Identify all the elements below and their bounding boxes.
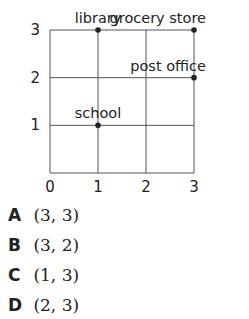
choice-a[interactable]: A (3, 3) — [8, 200, 79, 230]
choice-letter: D — [8, 290, 28, 319]
data-label: school — [75, 105, 122, 121]
choice-b[interactable]: B (3, 2) — [8, 230, 79, 260]
data-point — [95, 27, 101, 33]
y-tick-label: 2 — [30, 69, 40, 87]
answer-choices: A (3, 3) B (3, 2) C (1, 3) D (2, 3) — [8, 200, 79, 319]
x-tick-label: 3 — [189, 178, 199, 196]
choice-d[interactable]: D (2, 3) — [8, 290, 79, 319]
data-point — [191, 75, 197, 81]
choice-value: (3, 3) — [33, 205, 79, 225]
choice-value: (3, 2) — [33, 235, 79, 255]
y-tick-label: 3 — [30, 21, 40, 39]
data-point — [191, 27, 197, 33]
x-tick-label: 2 — [141, 178, 151, 196]
data-label: post office — [130, 58, 206, 74]
choice-value: (2, 3) — [33, 295, 79, 315]
choice-letter: C — [8, 260, 28, 290]
choice-letter: B — [8, 230, 28, 260]
choice-value: (1, 3) — [33, 265, 79, 285]
choice-c[interactable]: C (1, 3) — [8, 260, 79, 290]
coordinate-grid: 0123123librarygrocery storepost officesc… — [0, 0, 249, 200]
x-tick-label: 0 — [45, 178, 55, 196]
choice-letter: A — [8, 200, 28, 230]
data-point — [95, 123, 101, 129]
data-label: grocery store — [110, 10, 207, 26]
y-tick-label: 1 — [30, 116, 40, 134]
x-tick-label: 1 — [93, 178, 103, 196]
